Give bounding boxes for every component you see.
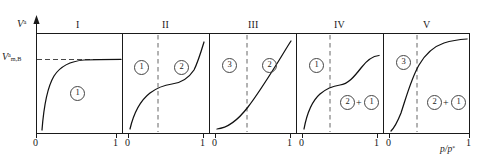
tick-p4-right: 1 xyxy=(374,138,379,148)
region-badge-II-2: 2 xyxy=(174,60,189,75)
curve-type-V xyxy=(391,39,467,131)
curve-type-II xyxy=(130,42,204,129)
tick-p2-right: 1 xyxy=(200,138,205,148)
region-dashed-dividers xyxy=(158,35,417,132)
panel-header-V: V xyxy=(423,20,430,30)
tick-p5-right: 1 xyxy=(466,138,471,148)
tick-p3-left: 0 xyxy=(212,138,217,148)
region-plus-V: + xyxy=(443,98,449,108)
region-badge-II-1: 1 xyxy=(134,60,149,75)
tick-p2-left: 0 xyxy=(125,138,130,148)
x-axis-label: p/p* xyxy=(440,145,455,155)
region-badge-V-3: 3 xyxy=(396,55,411,70)
region-badge-IV-1: 1 xyxy=(309,58,324,73)
region-badge-V-1b: 1 xyxy=(451,95,466,110)
tick-p4-left: 0 xyxy=(299,138,304,148)
region-badge-IV-1b: 1 xyxy=(364,95,379,110)
panel-header-II: II xyxy=(162,20,169,30)
isotherm-classification-figure xyxy=(0,0,486,160)
curve-type-III xyxy=(217,41,291,129)
panel-header-III: III xyxy=(248,20,259,30)
axes-frame xyxy=(36,34,470,134)
region-badge-III-3: 3 xyxy=(222,58,237,73)
tick-p5-left: 0 xyxy=(386,138,391,148)
panel-header-I: I xyxy=(76,20,80,30)
region-badge-V-2: 2 xyxy=(427,95,442,110)
x-axis-ticks xyxy=(37,134,470,139)
region-badge-I-1: 1 xyxy=(70,86,85,101)
region-badge-III-2: 2 xyxy=(262,58,277,73)
region-plus-IV: + xyxy=(356,98,362,108)
tick-p1-left: 0 xyxy=(33,138,38,148)
region-badge-IV-2: 2 xyxy=(340,95,355,110)
y-axis-tick-label: Vam,B xyxy=(2,52,21,63)
y-axis-label: Va xyxy=(17,19,26,30)
y-axis xyxy=(33,15,39,134)
tick-p1-right: 1 xyxy=(113,138,118,148)
tick-p3-right: 1 xyxy=(287,138,292,148)
panel-header-IV: IV xyxy=(334,20,345,30)
